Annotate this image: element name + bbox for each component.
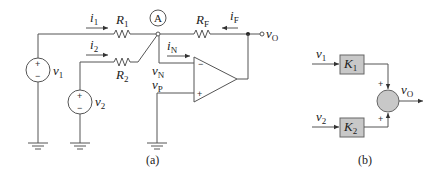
- r2-label: R2: [115, 67, 128, 84]
- caption-a: (a): [146, 153, 159, 167]
- rf-label: RF: [195, 12, 209, 29]
- k2-to-summer-arrow-icon: [364, 113, 388, 127]
- v2-label: v2: [95, 94, 105, 111]
- vo-terminal: [260, 32, 264, 36]
- i1-label: i1: [90, 10, 98, 27]
- node-a-label: A: [154, 12, 162, 24]
- ground-icon: [28, 143, 48, 149]
- block-diagram: v1 K1 + v2 K2 + vO (b): [312, 46, 423, 167]
- v1-wire: [38, 34, 114, 143]
- summer-plus-bottom: +: [378, 114, 383, 124]
- summing-junction-icon: [377, 90, 399, 112]
- circuit-figure: + − v1 R1 i1 + − v2 R2 i2 A RF: [0, 0, 441, 183]
- b-vo-label: vO: [401, 82, 414, 99]
- rf-resistor-icon: [160, 30, 260, 38]
- summer-plus-top: +: [378, 79, 383, 89]
- if-label: iF: [230, 8, 239, 25]
- r1-resistor-icon: [114, 30, 158, 38]
- output-feedback-wire: [237, 34, 248, 79]
- in-label: iN: [167, 38, 178, 55]
- v2-minus-sign: −: [77, 103, 82, 113]
- b-v2-label: v2: [316, 109, 326, 126]
- r1-label: R1: [115, 12, 128, 29]
- ground-icon: [70, 143, 90, 149]
- ground-icon: [147, 143, 167, 149]
- opamp-plus-sign: +: [197, 89, 202, 99]
- caption-b: (b): [358, 153, 372, 167]
- v1-label: v1: [53, 63, 63, 80]
- v1-minus-sign: −: [35, 71, 40, 81]
- v1-plus-sign: +: [35, 59, 40, 69]
- summing-amplifier-circuit: + − v1 R1 i1 + − v2 R2 i2 A RF: [26, 8, 279, 167]
- noninverting-input-wire: [157, 93, 194, 143]
- node-a-terminal: [156, 32, 160, 36]
- r2-resistor-icon: [114, 34, 158, 66]
- vo-label: vO: [266, 26, 279, 43]
- v2-plus-sign: +: [77, 91, 82, 101]
- v1-branch: + − v1: [26, 34, 114, 149]
- v2-branch: + − v2: [68, 62, 114, 149]
- k1-to-summer-arrow-icon: [364, 64, 388, 89]
- opamp-minus-sign: −: [198, 59, 203, 69]
- b-v1-label: v1: [316, 46, 326, 63]
- i2-label: i2: [90, 37, 98, 54]
